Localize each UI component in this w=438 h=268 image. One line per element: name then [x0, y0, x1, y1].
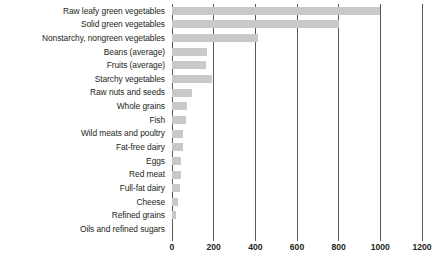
category-label: Raw nuts and seeds — [0, 86, 170, 100]
tick-label: 800 — [331, 243, 345, 252]
bar — [172, 75, 212, 83]
bar — [172, 198, 178, 206]
tick-label: 0 — [170, 243, 175, 252]
bar-row — [172, 113, 422, 127]
tick-mark — [380, 236, 381, 241]
category-label: Raw leafy green vegetables — [0, 4, 170, 18]
bar — [172, 61, 206, 69]
category-label: Wild meats and poultry — [0, 127, 170, 141]
bar-row — [172, 222, 422, 236]
bar — [172, 171, 181, 179]
bar — [172, 89, 192, 97]
category-label: Eggs — [0, 154, 170, 168]
bar-row — [172, 18, 422, 32]
bar — [172, 211, 176, 219]
category-label: Refined grains — [0, 209, 170, 223]
category-label: Oils and refined sugars — [0, 222, 170, 236]
bar-row — [172, 31, 422, 45]
bar — [172, 184, 180, 192]
tick-label: 400 — [248, 243, 262, 252]
category-label: Fish — [0, 113, 170, 127]
tick-label: 1200 — [412, 243, 431, 252]
bar-row — [172, 127, 422, 141]
bar — [172, 102, 187, 110]
bar — [172, 116, 186, 124]
category-label: Full-fat dairy — [0, 181, 170, 195]
bar-row — [172, 168, 422, 182]
tick-mark — [255, 236, 256, 241]
bar — [172, 143, 183, 151]
bar-row — [172, 4, 422, 18]
bar-row — [172, 195, 422, 209]
category-label: Fat-free dairy — [0, 140, 170, 154]
tick-mark — [297, 236, 298, 241]
category-label: Solid green vegetables — [0, 18, 170, 32]
category-label: Red meat — [0, 168, 170, 182]
tick-mark — [422, 236, 423, 241]
category-label: Cheese — [0, 195, 170, 209]
tick-label: 600 — [290, 243, 304, 252]
bar-row — [172, 140, 422, 154]
category-label: Beans (average) — [0, 45, 170, 59]
bar-row — [172, 72, 422, 86]
bar-row — [172, 154, 422, 168]
bar — [172, 20, 339, 28]
bar — [172, 7, 380, 15]
bar-row — [172, 86, 422, 100]
x-axis: 020040060080010001200 — [172, 236, 422, 264]
bar — [172, 48, 207, 56]
bar — [172, 157, 181, 165]
category-label: Whole grains — [0, 99, 170, 113]
bar-chart: Raw leafy green vegetablesSolid green ve… — [0, 0, 438, 268]
tick-mark — [338, 236, 339, 241]
bar-row — [172, 181, 422, 195]
tick-mark — [213, 236, 214, 241]
bar-row — [172, 45, 422, 59]
bar-series — [172, 4, 422, 236]
bar-row — [172, 209, 422, 223]
category-label: Nonstarchy, nongreen vegetables — [0, 31, 170, 45]
bar-row — [172, 59, 422, 73]
bar-row — [172, 99, 422, 113]
tick-label: 1000 — [371, 243, 390, 252]
plot-area — [172, 4, 422, 236]
tick-mark — [172, 236, 173, 241]
bar — [172, 130, 183, 138]
category-label: Starchy vegetables — [0, 72, 170, 86]
tick-label: 200 — [206, 243, 220, 252]
category-label: Fruits (average) — [0, 59, 170, 73]
bar — [172, 34, 258, 42]
category-label-column: Raw leafy green vegetablesSolid green ve… — [0, 4, 170, 236]
